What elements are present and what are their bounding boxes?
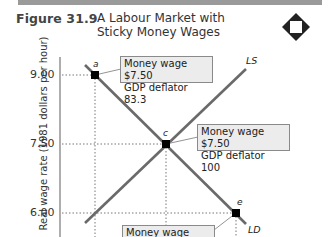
y-tick-7-5: 7.50 [30,137,55,150]
callout-c-line2: GDP deflator 100 [201,150,286,174]
callout-e: Money wage $7.50 [122,225,215,237]
callout-e-line1: Money wage $7.50 [126,227,211,237]
point-label-a: a [93,59,99,69]
y-tick-6: 6.00 [30,206,55,219]
callout-a-line2: GDP deflator 83.3 [124,82,209,106]
callout-a-line1: Money wage $7.50 [124,58,209,82]
curve-label-ls: LS [246,55,257,66]
callout-c: Money wage $7.50 GDP deflator 100 [197,124,290,151]
y-tick-9: 9.00 [30,68,55,81]
curve-label-ld: LD [248,224,261,235]
point-label-c: c [163,128,168,138]
chart-plot [0,0,330,237]
callout-a: Money wage $7.50 GDP deflator 83.3 [120,56,213,83]
callout-c-line1: Money wage $7.50 [201,126,286,150]
point-label-e: e [237,197,243,207]
